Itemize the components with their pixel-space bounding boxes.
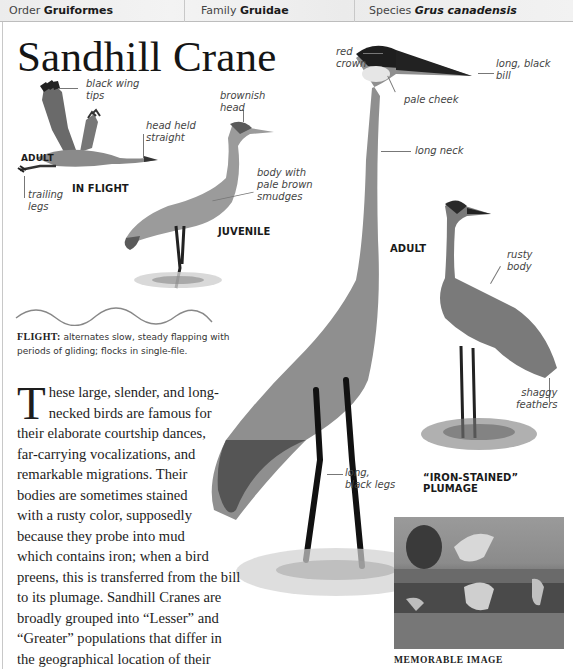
description-line: to its plumage. Sandhill Cranes are xyxy=(17,587,317,608)
label-shaggy-feathers: shaggyfeathers xyxy=(516,387,558,411)
label-black-wing-tips: black wingtips xyxy=(86,78,139,102)
memorable-image-caption: MEMORABLE IMAGE xyxy=(394,655,503,665)
cranes-flock-photo xyxy=(394,517,564,649)
description-line: bodies are sometimes stained xyxy=(17,485,317,506)
species-label: Species xyxy=(369,4,411,17)
description-line: “Greater” populations that differ in xyxy=(17,628,317,649)
label-long-black-bill: long, blackbill xyxy=(496,58,550,82)
description-line: hese large, slender, and long- xyxy=(17,382,317,403)
label-red-crown: redcrown xyxy=(336,46,366,70)
label-rusty-body: rustybody xyxy=(507,249,533,273)
iron-stained-caption: “IRON-STAINED” PLUMAGE xyxy=(423,472,573,494)
label-long-neck: long neck xyxy=(415,145,464,157)
family-value: Gruidae xyxy=(240,4,289,17)
description-line: necked birds are famous for xyxy=(17,403,317,424)
leader-line xyxy=(327,474,343,475)
description-line: because they probe into mud xyxy=(17,526,317,547)
description-line: broadly grouped into “Lesser” and xyxy=(17,608,317,629)
family-label: Family xyxy=(201,4,236,17)
description-line: with a rusty color, supposedly xyxy=(17,505,317,526)
description-line: preens, this is transferred from the bil… xyxy=(17,567,317,588)
iron-stained-crane-illustration xyxy=(415,198,573,460)
leader-line xyxy=(381,151,411,152)
description-line: the geographical location of their xyxy=(17,649,317,669)
order-cell: Order Gruiformes xyxy=(0,0,185,22)
order-value: Gruiformes xyxy=(44,4,113,17)
leader-line xyxy=(58,88,78,89)
order-label: Order xyxy=(9,4,40,17)
species-value: Grus canadensis xyxy=(415,4,517,17)
label-long-black-legs: long,black legs xyxy=(345,467,395,491)
flight-pattern-icon xyxy=(14,304,214,326)
family-cell: Family Gruidae xyxy=(185,0,355,22)
adult-flight-label: ADULT xyxy=(21,153,54,163)
species-description: T hese large, slender, and long- necked … xyxy=(17,382,317,669)
leader-line xyxy=(24,176,25,198)
flight-lead: FLIGHT: xyxy=(17,331,61,342)
description-line: which contains iron; when a bird xyxy=(17,546,317,567)
description-line: far-carrying vocalizations, and xyxy=(17,444,317,465)
description-line: their elaborate courtship dances, xyxy=(17,423,317,444)
species-cell: Species Grus canadensis xyxy=(355,0,573,22)
leader-line xyxy=(478,73,494,74)
taxonomy-header: Order Gruiformes Family Gruidae Species … xyxy=(0,0,573,22)
label-pale-cheek: pale cheek xyxy=(404,94,459,106)
memorable-image-photo xyxy=(394,517,564,649)
page-border xyxy=(2,22,3,669)
drop-cap: T xyxy=(17,384,46,422)
description-line: remarkable migrations. Their xyxy=(17,464,317,485)
label-trailing-legs: trailinglegs xyxy=(28,189,63,213)
